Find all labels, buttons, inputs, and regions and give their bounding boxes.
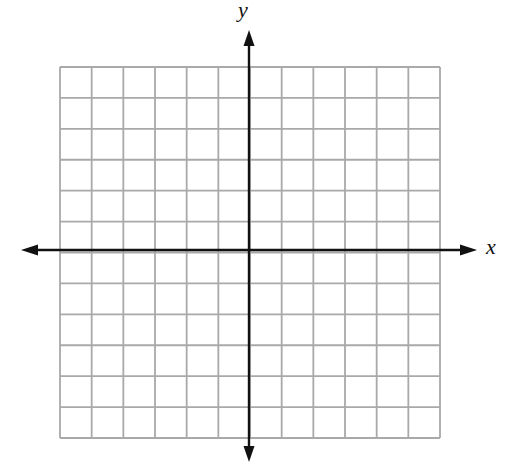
arrow-down-icon <box>244 446 255 462</box>
coordinate-grid-svg <box>0 0 512 467</box>
arrow-left-icon <box>21 245 38 256</box>
x-axis-label: x <box>486 236 496 258</box>
coordinate-plane: y x <box>0 0 512 467</box>
arrow-up-icon <box>244 30 255 46</box>
arrow-right-icon <box>460 245 477 256</box>
y-axis-label: y <box>238 0 248 21</box>
